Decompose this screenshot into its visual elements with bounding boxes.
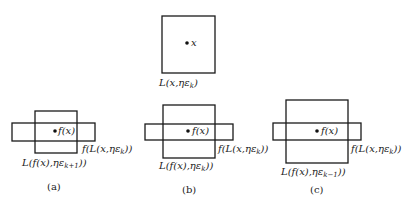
point-fx-label-c: f(x) — [320, 125, 338, 136]
caption-c: (c) — [310, 184, 324, 195]
neighborhood-box-x — [162, 16, 215, 73]
point-fx-label-b: f(x) — [191, 125, 209, 136]
ball-label-c: L(f(x),ηεk−1)) — [280, 166, 346, 179]
image-box-a — [12, 123, 95, 141]
panel-b: f(x) f(L(x,ηεk)) L(f(x),ηεk)) (b) — [145, 105, 268, 195]
caption-a: (a) — [47, 181, 61, 192]
image-label-c: f(L(x,ηεk)) — [350, 143, 401, 156]
ball-label-a: L(f(x),ηεk+1)) — [21, 157, 87, 170]
point-x-dot — [185, 41, 189, 45]
point-fx-dot-a — [53, 129, 57, 133]
point-fx-dot-b — [186, 129, 190, 133]
ball-label-b: L(f(x),ηεk)) — [158, 160, 213, 173]
caption-b: (b) — [182, 184, 196, 195]
point-fx-label-a: f(x) — [57, 125, 75, 136]
diagram-canvas: x L(x,ηεk) f(x) f(L(x,ηεk)) L(f(x),ηεk+1… — [0, 0, 407, 208]
image-label-a: f(L(x,ηεk)) — [81, 143, 132, 156]
top-panel: x L(x,ηεk) — [158, 16, 215, 90]
image-label-b: f(L(x,ηεk)) — [217, 143, 268, 156]
point-x-label: x — [191, 37, 197, 48]
panel-c: f(x) f(L(x,ηεk)) L(f(x),ηεk−1)) (c) — [273, 100, 401, 195]
point-fx-dot-c — [315, 129, 319, 133]
panel-a: f(x) f(L(x,ηεk)) L(f(x),ηεk+1)) (a) — [12, 111, 132, 192]
neighborhood-x-label: L(x,ηεk) — [158, 77, 198, 90]
